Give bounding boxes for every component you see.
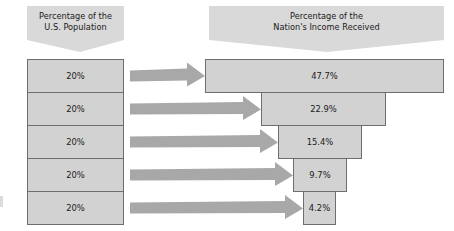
income-distribution-figure: Percentage of the U.S. Population Percen… xyxy=(0,0,454,231)
left-banner-line1: Percentage of the xyxy=(39,11,112,21)
page-edge-mark xyxy=(0,196,3,207)
income-bar-row: 4.2% xyxy=(304,192,336,225)
right-banner-line1: Percentage of the xyxy=(290,11,363,21)
population-stack: 20% 20% 20% 20% 20% xyxy=(28,60,124,225)
population-row: 20% xyxy=(28,126,124,159)
left-banner-line2: U.S. Population xyxy=(44,22,106,32)
population-label-5: 20% xyxy=(66,203,85,213)
income-bar-label-1: 47.7% xyxy=(311,71,338,81)
income-bar-label-2: 22.9% xyxy=(310,104,337,114)
population-row: 20% xyxy=(28,60,124,93)
population-row: 20% xyxy=(28,159,124,192)
income-bar-label-5: 4.2% xyxy=(309,203,330,213)
population-label-2: 20% xyxy=(66,104,85,114)
income-bar-label-3: 15.4% xyxy=(307,137,334,147)
population-label-4: 20% xyxy=(66,170,85,180)
income-bar-label-4: 9.7% xyxy=(309,170,330,180)
income-bar-row: 9.7% xyxy=(294,159,347,192)
right-banner-line2: Nation's Income Received xyxy=(273,22,379,32)
income-bar-row: 22.9% xyxy=(262,93,386,126)
population-label-3: 20% xyxy=(66,137,85,147)
income-bar-row: 15.4% xyxy=(279,126,362,159)
population-row: 20% xyxy=(28,192,124,225)
population-row: 20% xyxy=(28,93,124,126)
population-label-1: 20% xyxy=(66,71,85,81)
income-bar-row: 47.7% xyxy=(206,60,444,93)
